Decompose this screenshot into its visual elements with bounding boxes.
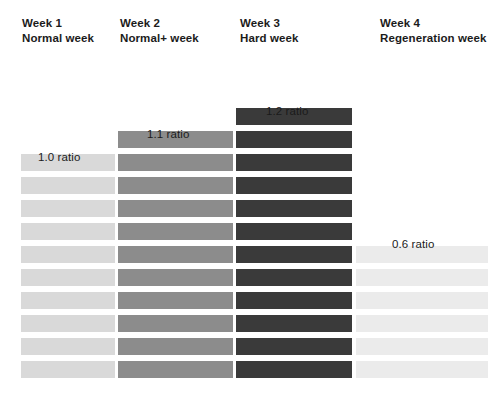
week-title-4: Week 4 [380, 16, 487, 31]
bar-block [118, 223, 233, 240]
bar-block [21, 200, 115, 217]
week-subtitle-2: Normal+ week [120, 31, 199, 46]
bar-block [356, 338, 488, 355]
ratio-label-4: 0.6 ratio [392, 238, 434, 250]
bar-block [356, 315, 488, 332]
bar-block [118, 338, 233, 355]
ratio-label-1: 1.0 ratio [38, 151, 80, 163]
week-title-1: Week 1 [22, 16, 94, 31]
bar-block [236, 154, 352, 171]
bar-block [236, 223, 352, 240]
bar-block [236, 200, 352, 217]
bar-block [21, 338, 115, 355]
ratio-label-2: 1.1 ratio [147, 128, 189, 140]
bar-block [236, 177, 352, 194]
bar-column-2 [118, 131, 233, 378]
bar-block [21, 269, 115, 286]
bar-block [118, 292, 233, 309]
bar-block [21, 223, 115, 240]
bar-block [356, 361, 488, 378]
bar-block [21, 177, 115, 194]
week-header-2: Week 2Normal+ week [120, 16, 199, 46]
bar-block [118, 361, 233, 378]
bar-block [118, 315, 233, 332]
week-header-1: Week 1Normal week [22, 16, 94, 46]
bar-block [118, 246, 233, 263]
periodization-chart: Week 1Normal week1.0 ratioWeek 2Normal+ … [0, 0, 503, 398]
bar-block [356, 269, 488, 286]
bar-column-1 [21, 154, 115, 378]
bar-block [356, 292, 488, 309]
bar-block [236, 292, 352, 309]
bar-block [236, 338, 352, 355]
bar-block [21, 361, 115, 378]
bar-block [236, 246, 352, 263]
bar-block [236, 361, 352, 378]
bar-block [21, 292, 115, 309]
bar-column-4 [356, 246, 488, 378]
bar-block [118, 269, 233, 286]
week-title-3: Week 3 [240, 16, 298, 31]
ratio-label-3: 1.2 ratio [266, 105, 308, 117]
week-title-2: Week 2 [120, 16, 199, 31]
bar-block [21, 315, 115, 332]
week-header-3: Week 3Hard week [240, 16, 298, 46]
week-subtitle-3: Hard week [240, 31, 298, 46]
bar-block [236, 131, 352, 148]
bar-block [118, 200, 233, 217]
bar-block [118, 177, 233, 194]
week-header-4: Week 4Regeneration week [380, 16, 487, 46]
week-subtitle-1: Normal week [22, 31, 94, 46]
bar-column-3 [236, 108, 352, 378]
bar-block [21, 246, 115, 263]
week-subtitle-4: Regeneration week [380, 31, 487, 46]
bar-block [236, 315, 352, 332]
bar-block [236, 269, 352, 286]
bar-block [118, 154, 233, 171]
